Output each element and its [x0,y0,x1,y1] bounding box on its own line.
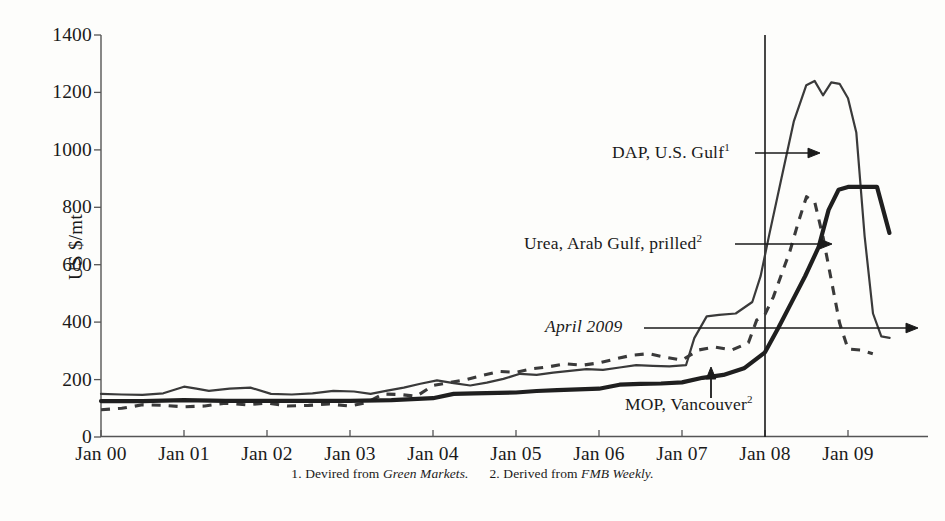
footnote-2-number: 2. [490,466,500,481]
annotation-dap-label: DAP, U.S. Gulf1 [612,141,730,163]
footnote-2-source: FMB Weekly. [581,466,654,481]
series-line-dap [101,81,890,395]
annotation-mop-label: MOP, Vancouver2 [625,393,753,415]
annotation-urea-label: Urea, Arab Gulf, prilled2 [524,232,702,254]
annotation-mop-text: MOP, Vancouver [625,394,747,414]
chart-plot-area [0,0,945,521]
annotation-dap-sup: 1 [724,141,730,153]
footnote-1-number: 1. [291,466,301,481]
annotation-mop-sup: 2 [747,393,753,405]
annotation-april-text: April 2009 [545,316,622,336]
series-line-urea [101,197,873,410]
annotation-april-2009-label: April 2009 [545,316,622,337]
annotation-urea-sup: 2 [696,232,702,244]
annotation-dap-text: DAP, U.S. Gulf [612,142,724,162]
footnote: 1. Devired from Green Markets. 2. Derive… [0,466,945,482]
footnote-1-text: Devired from [305,466,379,481]
series-line-mop [101,187,889,401]
y-axis-ticks [94,35,101,437]
footnote-2-text: Derived from [503,466,577,481]
annotation-urea-text: Urea, Arab Gulf, prilled [524,233,696,253]
footnote-1-source: Green Markets. [383,466,469,481]
